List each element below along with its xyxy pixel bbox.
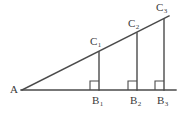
- label-point-c3: C3: [156, 2, 167, 13]
- right-angle-mark-b2: [128, 81, 137, 90]
- label-point-c1: C1: [90, 36, 101, 47]
- label-point-c2: C2: [128, 18, 139, 29]
- label-point-b2: B2: [130, 95, 141, 106]
- right-angle-mark-b3: [155, 81, 164, 90]
- hypotenuse-ray: [22, 16, 169, 90]
- label-point-b1: B1: [92, 95, 103, 106]
- geometry-figure: A C1 C2 C3 B1 B2 B3: [0, 0, 187, 115]
- label-point-a: A: [10, 84, 18, 95]
- right-angle-mark-b1: [90, 81, 99, 90]
- label-point-b3: B3: [157, 95, 168, 106]
